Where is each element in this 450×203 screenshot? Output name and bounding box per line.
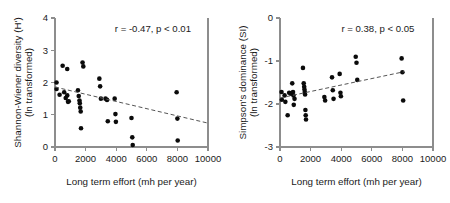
data-point [401,98,406,103]
x-tick-label: 2000 [300,153,321,164]
x-axis-tick-labels-left: 0200040006000800010000 [52,153,221,164]
data-point [98,84,103,89]
correlation-annotation-right: r = 0.38, p < 0.05 [341,23,414,34]
data-point [339,94,344,99]
x-axis-tick-labels-right: 0200040006000800010000 [277,153,446,164]
data-point [175,138,180,143]
x-tick-label: 6000 [361,153,382,164]
y-axis-tick-labels-right: -3-2-10 [265,12,273,152]
plot-frame-left [55,18,208,147]
correlation-annotation-left: r = -0.47, p < 0.01 [115,23,191,34]
data-point [330,75,335,80]
x-tick-label: 2000 [75,153,96,164]
data-point [303,113,308,118]
data-point [76,94,81,99]
data-point [331,97,336,102]
data-point [174,90,179,95]
x-tick-label: 6000 [136,153,157,164]
data-point [279,90,284,95]
x-tick-label: 10000 [420,153,446,164]
data-point [330,88,335,93]
x-axis-ticks-right [280,147,433,151]
data-point [97,76,102,81]
x-tick-label: 0 [277,153,282,164]
data-point [54,80,59,85]
data-point [304,117,309,122]
data-point [353,54,358,59]
data-point [283,100,288,105]
x-tick-label: 10000 [195,153,221,164]
data-points-left [54,60,180,147]
y-tick-label: 3 [43,45,48,56]
data-point [290,81,295,86]
data-point [130,135,135,140]
y-tick-label: -2 [265,98,273,109]
data-point [337,72,342,77]
data-point [60,63,65,68]
data-point [292,97,297,102]
chart-panel-shannon-wiener: 01234 0200040006000800010000 r = -0.47, … [0,0,225,203]
data-point [285,113,290,118]
data-point [175,116,180,121]
data-points-right [279,54,405,121]
data-point [303,108,308,113]
x-tick-label: 0 [52,153,57,164]
y-axis-tick-labels-left: 01234 [43,12,48,152]
data-point [113,112,118,117]
y-tick-label: 2 [43,77,48,88]
data-point [65,93,70,98]
x-tick-label: 4000 [106,153,127,164]
chart-panel-simpsons-dominance: -3-2-10 0200040006000800010000 r = 0.38,… [225,0,450,203]
y-tick-label: -3 [265,141,273,152]
y-tick-label: 1 [43,109,48,120]
y-axis-title-right: Simpson's dominance (SI) [237,25,248,139]
data-point [399,56,404,61]
x-tick-label: 8000 [392,153,413,164]
y-tick-label: 0 [43,141,48,152]
data-point [57,92,62,97]
y-axis-title-left: Shannon-Wiener diversity (H') [12,17,23,147]
data-point [130,143,135,148]
data-point [79,126,84,131]
x-axis-title-right: Long term effort (mh per year) [291,176,422,187]
data-point [78,105,83,110]
y-tick-label: 0 [268,12,273,23]
y-axis-ticks-right [276,18,280,147]
data-point [129,116,134,121]
data-point [81,64,86,69]
data-point [66,99,71,104]
data-point [80,60,85,65]
data-point [323,98,328,103]
y-tick-label: -1 [265,55,273,66]
scatter-plot-simpsons-dominance: -3-2-10 0200040006000800010000 r = 0.38,… [225,0,450,203]
data-point [291,103,296,108]
data-point [354,60,359,65]
y-axis-subtitle-right: (ln transformed) [248,48,259,117]
scatter-plot-shannon-wiener: 01234 0200040006000800010000 r = -0.47, … [0,0,225,203]
data-point [105,119,110,124]
figure-container: 01234 0200040006000800010000 r = -0.47, … [0,0,450,203]
data-point [301,66,306,71]
y-tick-label: 4 [43,12,48,23]
x-axis-title-left: Long term effort (mh per year) [66,176,197,187]
x-axis-ticks-left [55,147,208,151]
data-point [303,92,308,97]
y-axis-subtitle-left: (ln transformed) [23,48,34,117]
data-point [65,67,70,72]
x-tick-label: 8000 [167,153,188,164]
data-point [78,109,83,114]
data-point [77,101,82,106]
x-tick-label: 4000 [331,153,352,164]
data-point [114,120,119,125]
